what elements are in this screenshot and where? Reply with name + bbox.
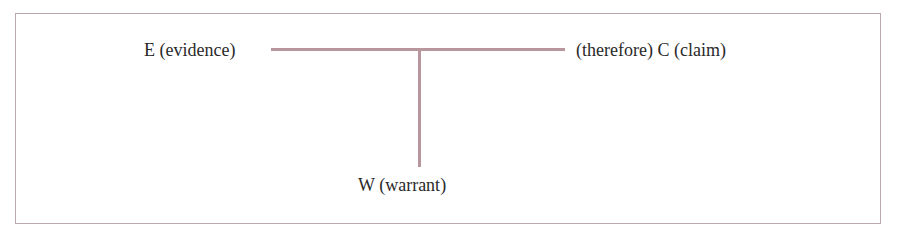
warrant-connector bbox=[418, 49, 421, 167]
claim-label: (therefore) C (claim) bbox=[576, 41, 726, 59]
evidence-label: E (evidence) bbox=[144, 41, 235, 59]
warrant-label: W (warrant) bbox=[358, 176, 446, 194]
